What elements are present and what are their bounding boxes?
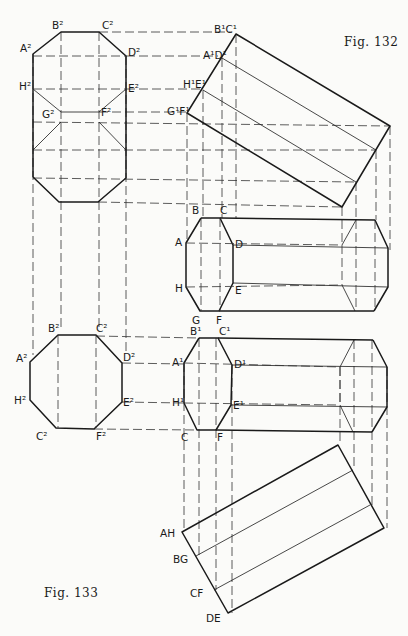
- label-h: H: [175, 282, 183, 294]
- label-c-lower: C: [181, 431, 188, 443]
- label-g2-lower: C²: [36, 430, 48, 442]
- label-bg: BG: [173, 553, 188, 565]
- label-e2: E²: [128, 82, 139, 94]
- orthographic-projection-drawing: A² B² C² D² E² F² G² H² B¹C¹ A¹D¹ H¹E¹ G…: [0, 0, 408, 636]
- bottom-rotated-labels: AH BG CF DE: [160, 527, 221, 624]
- label-a1d1: A¹D¹: [203, 49, 227, 61]
- projection-lines-bottom: [94, 336, 387, 613]
- label-b1c1: B¹C¹: [214, 23, 237, 35]
- lower-mid-labels: A¹ B¹ C¹ D¹ E¹ F C H¹: [172, 325, 246, 443]
- label-a1: A¹: [172, 356, 183, 368]
- label-b1: B¹: [190, 325, 201, 337]
- top-octagon-labels: A² B² C² D² E² F² G² H²: [19, 19, 140, 120]
- label-a2-lower: A²: [16, 352, 27, 364]
- label-de: DE: [206, 612, 221, 624]
- label-d1: D¹: [234, 358, 246, 370]
- label-e2-lower: E²: [123, 396, 134, 408]
- label-ah: AH: [160, 527, 175, 539]
- label-h1: H¹: [172, 396, 184, 408]
- label-d2: D²: [128, 46, 140, 58]
- top-rotated-labels: B¹C¹ A¹D¹ H¹E¹ G¹F¹: [167, 23, 237, 117]
- mid-prism: [186, 218, 388, 311]
- lower-mid-prism: [184, 338, 387, 432]
- label-d: D: [235, 238, 243, 250]
- label-h1e1: H¹E¹: [183, 78, 206, 90]
- figure-132-caption: Fig. 132: [344, 35, 398, 49]
- label-g1f1: G¹F¹: [167, 105, 190, 117]
- label-h2: H²: [19, 80, 31, 92]
- label-a: A: [175, 236, 183, 248]
- label-c2-lower: C²: [96, 322, 108, 334]
- lower-octagon-labels: A² B² C² D² E² F² C² H²: [14, 322, 135, 442]
- label-f2-lower: F²: [96, 430, 106, 442]
- label-d2-lower: D²: [123, 351, 135, 363]
- label-c: C: [220, 204, 227, 216]
- label-a2: A²: [20, 42, 31, 54]
- lower-octagon: [30, 335, 122, 429]
- label-b2: B²: [52, 19, 63, 31]
- label-cf: CF: [190, 587, 203, 599]
- projection-lines-top: [33, 32, 390, 355]
- label-b: B: [192, 204, 199, 216]
- bottom-rotated-view: [182, 445, 384, 613]
- label-f2: F²: [101, 106, 111, 118]
- label-e: E: [235, 284, 242, 296]
- label-c2: C²: [102, 19, 114, 31]
- figure-133-caption: Fig. 133: [44, 586, 98, 600]
- label-b2-lower: B²: [48, 322, 59, 334]
- label-e1: E¹: [233, 399, 244, 411]
- label-f-lower: F: [217, 431, 223, 443]
- label-h2-lower: H²: [14, 394, 26, 406]
- label-c1: C¹: [219, 325, 231, 337]
- label-g2: G²: [42, 108, 54, 120]
